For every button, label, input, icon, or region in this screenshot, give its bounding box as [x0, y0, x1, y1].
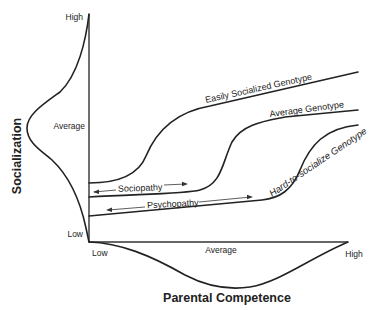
- hard-to-socialize-genotype-curve: [89, 125, 358, 216]
- sociopathy-arrowhead-right: [182, 182, 188, 186]
- x-tick-high: High: [345, 249, 363, 259]
- sociopathy-label: Sociopathy: [118, 182, 163, 194]
- x-axis-title: Parental Competence: [163, 291, 291, 305]
- socialization-diagram: Sociopathy Psychopathy Easily Socialized…: [0, 0, 383, 310]
- hard-to-socialize-genotype-label: Hard-to-socialize Genotype: [267, 125, 369, 198]
- easily-socialized-genotype-label: Easily Socialized Genotype: [204, 72, 313, 105]
- psychopathy-label: Psychopathy: [147, 198, 199, 211]
- average-genotype-label: Average Genotype: [269, 99, 345, 119]
- sociopathy-arrowhead-left: [93, 190, 99, 194]
- psychopathy-arrowhead-left: [106, 208, 112, 212]
- x-tick-average: Average: [205, 245, 237, 255]
- psychopathy-arrow-left: [108, 207, 145, 210]
- y-axis-title: Socialization: [10, 118, 24, 194]
- y-tick-low: Low: [67, 229, 83, 239]
- x-tick-low: Low: [92, 248, 108, 258]
- y-tick-high: High: [66, 12, 84, 22]
- y-tick-average: Average: [53, 121, 85, 131]
- psychopathy-arrowhead-right: [247, 195, 253, 199]
